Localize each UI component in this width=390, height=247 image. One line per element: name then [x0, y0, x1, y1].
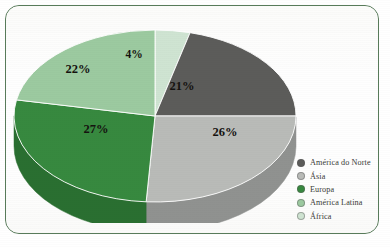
legend-item-america-latina[interactable]: América Latina — [297, 196, 385, 209]
legend-label-america-latina: América Latina — [310, 198, 363, 207]
pie-chart-area: 4% 21% 26% 27% 22% — [10, 8, 300, 223]
legend-label-africa: África — [310, 212, 332, 221]
legend-label-europa: Europa — [310, 185, 334, 194]
legend-label-america-do-norte: América do Norte — [310, 158, 371, 167]
legend-swatch-icon-africa — [297, 212, 305, 220]
data-label-africa: 4% — [125, 48, 142, 60]
data-label-america-latina: 22% — [66, 62, 91, 76]
pie-top-face — [14, 30, 296, 202]
legend-item-asia[interactable]: Ásia — [297, 169, 385, 182]
pie-chart-svg: 4% 21% 26% 27% 22% — [10, 8, 300, 223]
legend-label-asia: Ásia — [310, 172, 325, 181]
legend-swatch-icon-asia — [297, 172, 305, 180]
legend-swatch-icon-america-do-norte — [297, 159, 305, 167]
legend-swatch-icon-america-latina — [297, 199, 305, 207]
legend-item-america-do-norte[interactable]: América do Norte — [297, 156, 385, 169]
legend-swatch-icon-europa — [297, 185, 305, 193]
chart-legend: América do Norte Ásia Europa América Lat… — [297, 156, 385, 223]
data-label-asia: 26% — [213, 125, 238, 139]
data-label-europa: 27% — [84, 122, 109, 136]
chart-page: 4% 21% 26% 27% 22% América do Norte Ásia… — [0, 0, 390, 247]
legend-item-europa[interactable]: Europa — [297, 183, 385, 196]
data-label-america-do-norte: 21% — [170, 79, 195, 93]
legend-item-africa[interactable]: África — [297, 210, 385, 223]
